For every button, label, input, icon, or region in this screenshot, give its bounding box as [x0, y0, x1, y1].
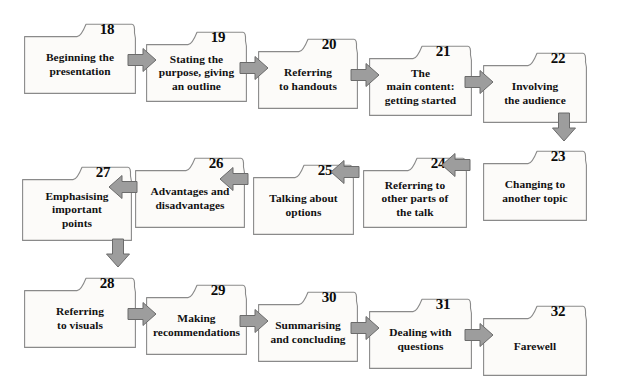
- arrow-right-icon: [464, 69, 494, 95]
- flow-node-number-31: 31: [420, 297, 466, 312]
- flow-node-label-20: Referring to handouts: [261, 53, 355, 107]
- flow-node-28[interactable]: 28Referring to visuals: [24, 277, 136, 348]
- flow-node-number-20: 20: [306, 37, 352, 52]
- flow-node-18[interactable]: 18Beginning the presentation: [24, 23, 136, 94]
- arrow-left-icon: [108, 174, 138, 200]
- flowchart-canvas: 18Beginning the presentation19Stating th…: [0, 0, 619, 389]
- arrow-right-icon: [350, 62, 380, 88]
- arrow-right-icon: [127, 47, 157, 73]
- arrow-down-icon: [551, 112, 577, 142]
- flow-node-32[interactable]: 32Farewell: [483, 305, 587, 376]
- arrow-left-icon: [330, 159, 360, 185]
- flow-node-number-29: 29: [195, 283, 241, 298]
- flow-node-label-24: Referring to other parts of the talk: [366, 172, 464, 226]
- arrow-left-icon: [441, 152, 471, 178]
- flow-node-29[interactable]: 29Making recommendations: [146, 284, 247, 355]
- flow-node-label-25: Talking about options: [256, 179, 351, 233]
- flow-node-number-32: 32: [535, 304, 581, 319]
- arrow-left-icon: [219, 166, 249, 192]
- flow-node-number-23: 23: [535, 149, 581, 164]
- flow-node-30[interactable]: 30Summarising and concluding: [258, 291, 358, 362]
- flow-node-21[interactable]: 21The main content: getting started: [369, 45, 472, 116]
- flow-node-label-21: The main content: getting started: [372, 60, 469, 114]
- arrow-right-icon: [350, 315, 380, 341]
- flow-node-label-31: Dealing with questions: [372, 313, 469, 367]
- flow-node-20[interactable]: 20Referring to handouts: [258, 38, 358, 109]
- arrow-down-icon: [105, 238, 131, 268]
- flow-node-label-19: Stating the purpose, giving an outline: [149, 46, 244, 100]
- flow-node-label-23: Changing to another topic: [486, 165, 584, 219]
- flow-node-label-29: Making recommendations: [149, 299, 244, 353]
- flow-node-31[interactable]: 31Dealing with questions: [369, 298, 472, 369]
- flow-node-label-32: Farewell: [486, 320, 584, 374]
- flow-node-23[interactable]: 23Changing to another topic: [483, 150, 587, 221]
- flow-node-number-18: 18: [84, 22, 130, 37]
- arrow-right-icon: [239, 308, 269, 334]
- flow-node-number-22: 22: [535, 51, 581, 66]
- flow-node-number-30: 30: [306, 290, 352, 305]
- arrow-right-icon: [127, 301, 157, 327]
- flow-node-number-21: 21: [420, 44, 466, 59]
- flow-node-number-19: 19: [195, 30, 241, 45]
- flow-node-label-28: Referring to visuals: [27, 292, 133, 346]
- flow-node-label-18: Beginning the presentation: [27, 38, 133, 92]
- flow-node-label-30: Summarising and concluding: [261, 306, 355, 360]
- flow-node-number-28: 28: [84, 276, 130, 291]
- flow-node-19[interactable]: 19Stating the purpose, giving an outline: [146, 31, 247, 102]
- arrow-right-icon: [464, 322, 494, 348]
- arrow-right-icon: [239, 55, 269, 81]
